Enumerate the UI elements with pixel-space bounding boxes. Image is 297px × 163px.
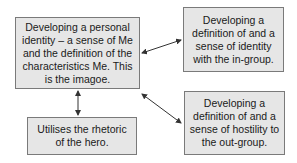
node-personal-identity-text: Developing a personal identity – a sense… xyxy=(20,21,135,86)
arrow-main-out-group xyxy=(142,94,181,123)
node-hero-rhetoric: Utilises the rhetoric of the hero. xyxy=(27,117,137,155)
arrow-main-in-group xyxy=(142,40,181,53)
node-hero-rhetoric-text: Utilises the rhetoric of the hero. xyxy=(32,123,132,149)
node-in-group-text: Developing a definition of and a sense o… xyxy=(188,14,279,66)
node-personal-identity: Developing a personal identity – a sense… xyxy=(15,17,140,89)
node-out-group-text: Developing a definition of and a sense o… xyxy=(189,97,280,149)
node-in-group: Developing a definition of and a sense o… xyxy=(183,7,284,72)
node-out-group: Developing a definition of and a sense o… xyxy=(184,91,285,155)
